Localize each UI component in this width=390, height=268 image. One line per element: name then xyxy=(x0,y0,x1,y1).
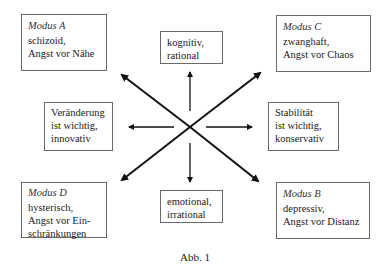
left-axis-line-3: innovativ xyxy=(51,132,106,145)
modus-b-line-2: Angst vor Distanz xyxy=(283,215,363,228)
right-axis-line-2: ist wichtig, xyxy=(275,119,332,132)
modus-b-line-1: depressiv, xyxy=(283,202,363,215)
modus-d-box: Modus D hysterisch, Angst vor Ein- schrä… xyxy=(21,182,107,238)
modus-b-box: Modus B depressiv, Angst vor Distanz xyxy=(276,182,370,239)
arrow-to-modus-c xyxy=(190,73,260,127)
right-axis-line-3: konservativ xyxy=(275,132,332,145)
modus-a-line-1: schizoid, xyxy=(28,34,100,47)
arrow-to-modus-a xyxy=(122,75,190,127)
top-axis-box: kognitiv, rational xyxy=(160,31,223,64)
modus-c-line-1: zwanghaft, xyxy=(283,35,364,48)
left-axis-box: Veränderung ist wichtig, innovativ xyxy=(44,102,113,151)
arrow-to-modus-b xyxy=(190,127,258,181)
modus-b-title: Modus B xyxy=(283,187,363,200)
modus-c-box: Modus C zwanghaft, Angst vor Chaos xyxy=(276,15,371,72)
right-axis-box: Stabilität ist wichtig, konservativ xyxy=(268,102,339,151)
left-axis-line-1: Veränderung xyxy=(51,106,106,119)
bottom-axis-line-1: emotional, xyxy=(167,195,216,208)
left-axis-line-2: ist wichtig, xyxy=(51,119,106,132)
figure-caption: Abb. 1 xyxy=(0,251,390,263)
modus-d-line-3: schränkungen xyxy=(28,227,100,240)
modus-c-title: Modus C xyxy=(283,20,364,33)
arrow-to-modus-d xyxy=(122,127,190,180)
top-axis-line-2: rational xyxy=(167,49,216,62)
modus-c-line-2: Angst vor Chaos xyxy=(283,48,364,61)
modus-d-title: Modus D xyxy=(28,186,100,199)
modus-d-line-2: Angst vor Ein- xyxy=(28,214,100,227)
modus-a-title: Modus A xyxy=(28,19,100,32)
modus-a-line-2: Angst vor Nähe xyxy=(28,47,100,60)
top-axis-line-1: kognitiv, xyxy=(167,36,216,49)
right-axis-line-1: Stabilität xyxy=(275,106,332,119)
modus-a-box: Modus A schizoid, Angst vor Nähe xyxy=(21,14,107,71)
bottom-axis-line-2: irrational xyxy=(167,208,216,221)
modus-d-line-1: hysterisch, xyxy=(28,201,100,214)
bottom-axis-box: emotional, irrational xyxy=(160,190,223,223)
